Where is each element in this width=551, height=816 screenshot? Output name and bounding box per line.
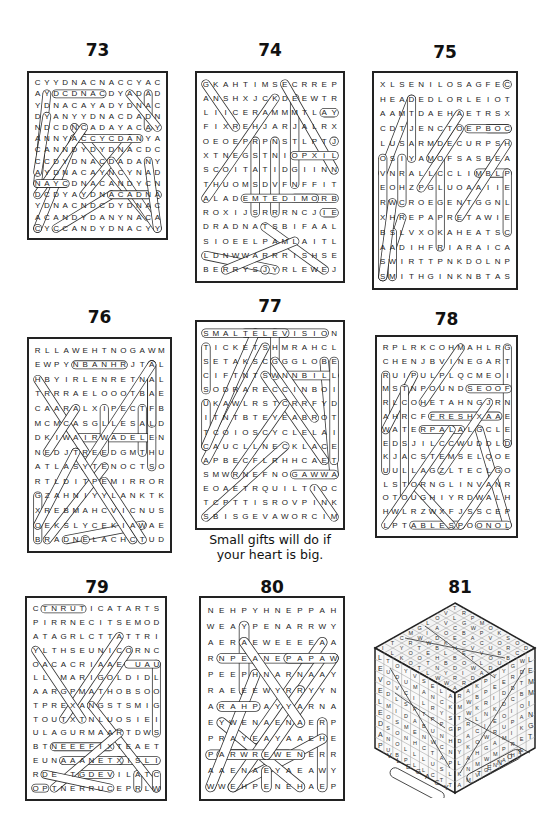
grid-letter: C (134, 122, 143, 133)
svg-text:M: M (386, 703, 391, 709)
grid-letter: C (445, 166, 455, 181)
grid-letter: E (216, 602, 227, 618)
grid-letter: N (272, 618, 283, 634)
grid-letter: N (125, 212, 134, 223)
svg-text:A: A (449, 693, 453, 699)
grid-letter: W (43, 358, 53, 373)
svg-text:W: W (471, 665, 477, 671)
grid-letter: S (105, 698, 114, 712)
grid-letter: T (96, 685, 105, 699)
grid-letter: E (90, 372, 100, 387)
grid-letter: B (43, 372, 53, 387)
grid-letter: F (250, 453, 260, 467)
grid-letter: I (280, 482, 290, 496)
grid-letter: A (31, 630, 40, 644)
svg-text:A: A (378, 731, 383, 738)
grid-letter: R (59, 602, 68, 616)
grid-letter: L (77, 630, 86, 644)
grid-letter: R (294, 682, 305, 698)
grid-letter: O (416, 195, 426, 210)
svg-text:E: E (520, 736, 524, 742)
puzzle-76-title: 76 (27, 307, 172, 327)
grid-letter: T (221, 354, 231, 368)
grid-letter: N (261, 666, 272, 682)
grid-letter: L (40, 643, 49, 657)
grid-letter: N (134, 167, 143, 178)
grid-letter: W (390, 505, 399, 519)
grid-letter: Y (79, 212, 88, 223)
grid-letter: E (300, 425, 310, 439)
grid-letter: R (493, 396, 502, 410)
grid-letter: S (465, 505, 474, 519)
grid-letter: E (239, 715, 250, 731)
grid-letter: N (221, 248, 231, 262)
grid-letter: A (100, 532, 110, 547)
svg-text:L: L (378, 654, 382, 661)
grid-letter: L (329, 368, 339, 382)
grid-letter: I (231, 163, 241, 177)
svg-text:U: U (404, 679, 408, 685)
letter-grid: CYYDNACNACCYACAYDCDNACDYADADYDNACAYADYDN… (33, 77, 162, 234)
grid-letter: P (283, 650, 294, 666)
svg-text:B: B (462, 630, 466, 636)
svg-text:L: L (422, 767, 425, 773)
grid-letter: L (96, 712, 105, 726)
grid-letter: N (79, 200, 88, 211)
grid-letter: C (61, 88, 70, 99)
grid-letter: D (201, 220, 211, 234)
grid-letter: D (107, 200, 116, 211)
grid-letter: H (227, 602, 238, 618)
grid-letter: I (119, 518, 129, 533)
grid-letter: Y (153, 156, 162, 167)
grid-letter: H (397, 180, 407, 195)
grid-letter: U (133, 657, 142, 671)
grid-letter: D (42, 122, 51, 133)
grid-letter: A (107, 77, 116, 88)
grid-letter: U (87, 643, 96, 657)
grid-letter: W (381, 423, 390, 437)
grid-letter: B (33, 532, 43, 547)
grid-letter: C (116, 77, 125, 88)
grid-letter: A (446, 396, 455, 410)
svg-text:B: B (422, 723, 426, 729)
grid-letter: R (43, 503, 53, 518)
grid-letter: A (319, 106, 329, 120)
grid-letter: R (306, 618, 317, 634)
grid-letter: R (290, 340, 300, 354)
grid-letter: G (474, 77, 484, 92)
grid-letter: E (407, 77, 417, 92)
grid-letter: R (416, 136, 426, 151)
grid-letter: N (61, 212, 70, 223)
grid-letter: I (319, 206, 329, 220)
grid-letter: A (61, 99, 70, 110)
grid-letter: Y (239, 618, 250, 634)
grid-letter: N (98, 77, 107, 88)
grid-letter: A (270, 234, 280, 248)
grid-letter: A (90, 358, 100, 373)
grid-letter: J (260, 263, 270, 277)
grid-letter: L (52, 474, 62, 489)
grid-letter: D (51, 156, 60, 167)
svg-text:A: A (453, 685, 457, 691)
svg-text:H: H (475, 750, 479, 756)
grid-letter: H (475, 341, 484, 355)
grid-letter: A (216, 682, 227, 698)
grid-letter: N (329, 163, 339, 177)
grid-letter: M (388, 269, 398, 284)
grid-letter: W (205, 618, 216, 634)
grid-letter: C (378, 121, 388, 136)
svg-text:C: C (453, 625, 457, 631)
grid-letter: L (493, 166, 503, 181)
grid-letter: A (464, 151, 474, 166)
svg-text:W: W (466, 710, 472, 716)
grid-letter: R (493, 341, 502, 355)
grid-letter: E (493, 77, 503, 92)
grid-letter: N (157, 430, 167, 445)
svg-text:C: C (480, 640, 484, 646)
grid-letter: T (407, 269, 417, 284)
grid-letter: N (33, 445, 43, 460)
grid-letter: E (270, 326, 280, 340)
grid-letter: P (240, 134, 250, 148)
grid-letter: R (227, 634, 238, 650)
grid-letter: E (250, 682, 261, 698)
